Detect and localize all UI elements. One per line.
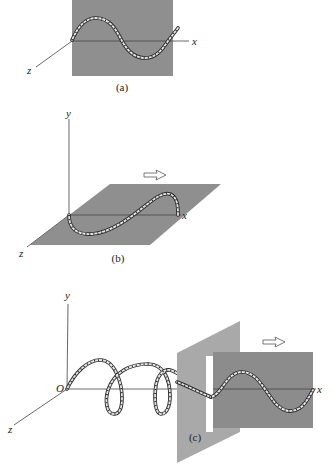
polarization-figure: x z (a) y x z (b): [0, 0, 333, 474]
panel-c: y O x z (c): [7, 289, 322, 463]
panel-b-propagation-arrow-icon: [144, 170, 166, 180]
panel-b-z-label: z: [18, 247, 24, 259]
panel-c-x-label: x: [316, 383, 322, 395]
panel-c-propagation-arrow-icon: [263, 337, 285, 347]
panel-c-caption: (c): [189, 431, 202, 444]
panel-c-y-label: y: [64, 289, 70, 301]
panel-c-origin-label: O: [56, 382, 64, 394]
panel-c-y-axis: [67, 304, 68, 389]
panel-a-caption: (a): [116, 81, 129, 94]
panel-a-vertical-plane: [72, 0, 173, 76]
panel-a-z-axis: [36, 41, 72, 67]
panel-a: x z (a): [26, 0, 197, 94]
panel-b-y-label: y: [65, 107, 71, 119]
panel-a-x-label: x: [191, 35, 197, 47]
panel-c-polarized-wave-plane: [213, 352, 313, 428]
panel-b-x-label: x: [181, 209, 187, 221]
panel-b-horizontal-plane: [30, 184, 221, 245]
panel-b: y x z (b): [18, 107, 221, 265]
panel-c-z-label: z: [7, 423, 13, 435]
panel-b-caption: (b): [112, 252, 125, 265]
panel-a-z-label: z: [26, 64, 32, 76]
panel-c-z-axis: [14, 389, 67, 425]
